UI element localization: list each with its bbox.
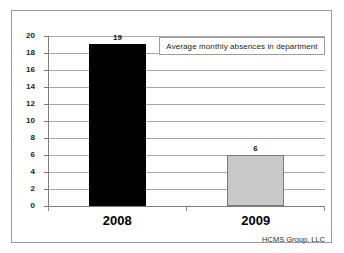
y-tick-label-8: 8 (13, 134, 35, 142)
bar-value-label-2008: 19 (89, 33, 146, 42)
category-divider-tick (186, 206, 187, 211)
y-tick-label-12: 12 (13, 100, 35, 108)
y-tick-label-6: 6 (13, 151, 35, 159)
x-axis-label-2009: 2009 (187, 214, 326, 228)
footer-credit: HCMS Group, LLC (162, 235, 325, 244)
y-tick-label-16: 16 (13, 66, 35, 74)
category-end-tick (324, 206, 325, 211)
bar-value-label-2009: 6 (227, 144, 284, 153)
chart-outer-frame: 196 Average monthly absences in departme… (11, 10, 332, 243)
bar-2009 (227, 155, 284, 206)
plot-area: 196 Average monthly absences in departme… (48, 36, 325, 206)
y-tick-label-2: 2 (13, 185, 35, 193)
chart-figure: 196 Average monthly absences in departme… (0, 0, 344, 253)
y-tick-label-18: 18 (13, 49, 35, 57)
y-tick-label-14: 14 (13, 83, 35, 91)
legend-box: Average monthly absences in department (159, 37, 325, 55)
bar-2008 (89, 44, 146, 206)
x-axis-label-2008: 2008 (48, 214, 187, 228)
y-tick-label-20: 20 (13, 32, 35, 40)
category-start-tick (48, 206, 49, 211)
y-axis-line (48, 36, 49, 206)
legend-label: Average monthly absences in department (166, 42, 317, 51)
y-tick-label-0: 0 (13, 202, 35, 210)
y-tick-label-4: 4 (13, 168, 35, 176)
y-tick-label-10: 10 (13, 117, 35, 125)
